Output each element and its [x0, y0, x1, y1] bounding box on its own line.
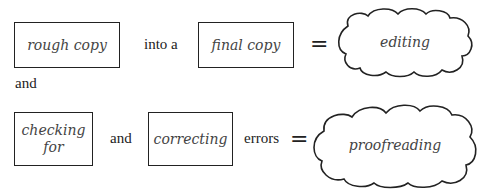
- and-text: and: [15, 75, 37, 92]
- checking-for-box: checking for: [14, 112, 93, 166]
- rough-copy-label: rough copy: [27, 37, 107, 54]
- equals-sign-1: =: [310, 33, 328, 55]
- proofreading-cloud: proofreading: [310, 101, 480, 189]
- equals-sign-2: =: [290, 128, 308, 150]
- into-a-text: into a: [144, 36, 178, 53]
- editing-label: editing: [334, 4, 476, 80]
- proofreading-label: proofreading: [310, 101, 480, 189]
- checking-for-label: checking for: [21, 122, 86, 156]
- errors-text: errors: [244, 130, 279, 147]
- editing-cloud: editing: [334, 4, 476, 80]
- correcting-label: correcting: [154, 131, 228, 148]
- rough-copy-box: rough copy: [14, 22, 120, 68]
- final-copy-box: final copy: [198, 22, 294, 68]
- and-connector-text: and: [110, 130, 132, 147]
- correcting-box: correcting: [148, 112, 233, 166]
- final-copy-label: final copy: [212, 37, 281, 54]
